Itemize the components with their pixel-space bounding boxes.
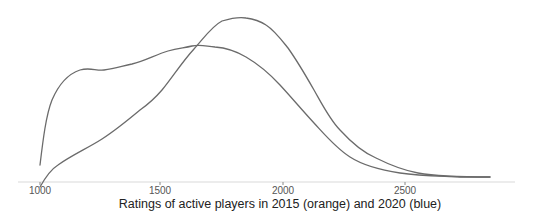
x-axis-title: Ratings of active players in 2015 (orang… (119, 197, 441, 211)
x-tick-label: 2500 (394, 185, 417, 196)
x-tick-label: 1500 (149, 185, 172, 196)
plot-background (0, 0, 535, 221)
density-chart: 1000150020002500 Ratings of active playe… (0, 0, 535, 221)
x-tick-label: 2000 (272, 185, 295, 196)
